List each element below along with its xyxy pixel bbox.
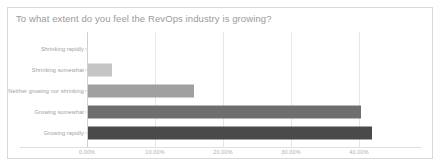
bar-neither-growing-nor-shrinking — [88, 85, 194, 98]
y-tick-0 — [85, 49, 87, 50]
y-tick-2 — [85, 91, 87, 92]
category-label-growing-somewhat: Growing somewhat — [35, 109, 84, 115]
y-tick-4 — [85, 133, 87, 134]
bar-growing-somewhat — [88, 106, 361, 119]
xtick-label-10: 10.00% — [145, 149, 164, 155]
xtick-label-20: 20.00% — [213, 149, 232, 155]
chart-card: To what extent do you feel the RevOps in… — [7, 7, 433, 159]
bar-shrinking-somewhat — [88, 64, 112, 77]
y-tick-1 — [85, 70, 87, 71]
x-axis-line — [20, 147, 422, 148]
category-label-shrinking-rapidly: Shrinking rapidly — [41, 46, 84, 52]
category-label-shrinking-somewhat: Shrinking somewhat — [32, 67, 84, 73]
plot-area: Shrinking rapidly Shrinking somewhat Nei… — [8, 8, 434, 160]
bar-growing-rapidly — [88, 127, 372, 140]
y-tick-3 — [85, 112, 87, 113]
category-label-growing-rapidly: Growing rapidly — [44, 130, 84, 136]
xtick-label-0: 0.00% — [79, 149, 95, 155]
xtick-label-30: 30.00% — [281, 149, 300, 155]
category-label-neither-growing-nor-shrinking: Neither growing nor shrinking — [8, 88, 84, 94]
xtick-label-40: 40.00% — [349, 149, 368, 155]
